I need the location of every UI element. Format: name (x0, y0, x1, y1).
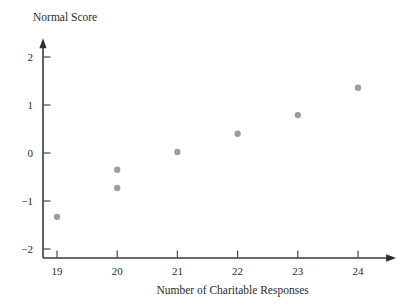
data-point (234, 131, 240, 137)
data-point (295, 112, 301, 118)
data-point (114, 167, 120, 173)
y-axis-tick-label: −1 (21, 195, 33, 207)
x-axis-tick-label: 20 (112, 265, 124, 277)
y-axis-ticks: −2−1012 (21, 51, 50, 255)
y-axis-arrow-icon (39, 38, 46, 48)
y-axis-tick-label: 1 (28, 99, 34, 111)
data-points-group (54, 85, 361, 221)
x-axis-arrow-icon (386, 254, 396, 262)
x-axis-tick-label: 19 (52, 265, 64, 277)
y-axis-tick-label: 0 (28, 147, 34, 159)
x-axis-tick-label: 21 (172, 265, 183, 277)
x-axis-title: Number of Charitable Responses (156, 284, 309, 297)
y-axis-tick-label: −2 (21, 243, 33, 255)
y-axis-title: Normal Score (33, 11, 97, 23)
data-point (54, 214, 60, 220)
data-point (355, 85, 361, 91)
x-axis-tick-label: 22 (232, 265, 243, 277)
axes-group (39, 38, 396, 262)
normal-probability-plot: −2−1012 192021222324 Normal Score Number… (0, 0, 407, 306)
x-axis-ticks: 192021222324 (52, 251, 365, 278)
y-axis-tick-label: 2 (28, 51, 34, 63)
x-axis-tick-label: 23 (292, 265, 304, 277)
data-point (174, 149, 180, 155)
scatter-plot-figure: −2−1012 192021222324 Normal Score Number… (0, 0, 407, 306)
data-point (114, 185, 120, 191)
x-axis-tick-label: 24 (353, 265, 365, 277)
